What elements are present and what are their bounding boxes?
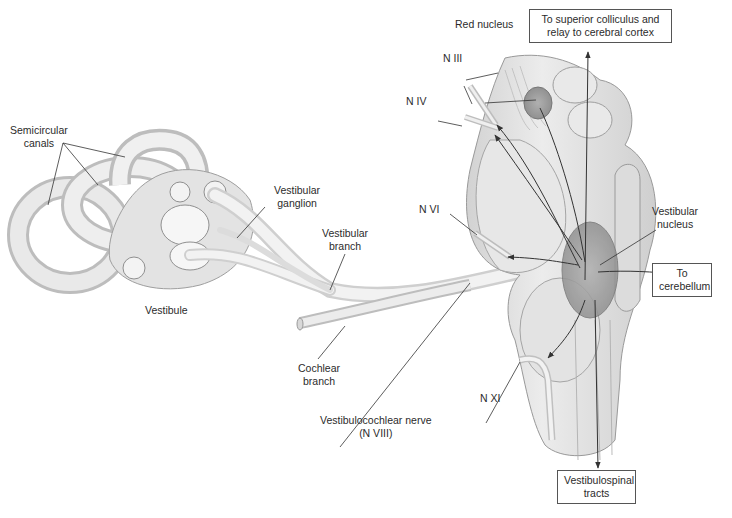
box-line: tracts [564, 487, 629, 500]
box-superior-colliculus: To superior colliculus and relay to cere… [529, 9, 672, 43]
red-nucleus-shape [524, 87, 552, 119]
label-vestibule: Vestibule [145, 304, 188, 317]
box-line: To superior colliculus and [536, 13, 665, 26]
box-cerebellum: To cerebellum [652, 263, 712, 297]
label-text: Red nucleus [455, 18, 513, 30]
label-line: Cochlear [298, 362, 340, 375]
label-n-vi: N VI [419, 203, 439, 216]
label-line: Semicircular [10, 124, 68, 137]
label-vestibular-nucleus: Vestibular nucleus [652, 205, 698, 231]
label-text: N XI [480, 392, 500, 404]
label-line: canals [10, 137, 68, 150]
label-line: Vestibular [652, 205, 698, 218]
label-cochlear-branch: Cochlear branch [298, 362, 340, 388]
vestibule-drawing [109, 170, 253, 289]
label-line: (N VIII) [320, 427, 432, 440]
label-line: Vestibular [274, 184, 320, 197]
label-red-nucleus: Red nucleus [455, 18, 513, 31]
label-vestibular-ganglion: Vestibular ganglion [274, 184, 320, 210]
box-line: To [659, 267, 705, 280]
label-n-iii: N III [443, 52, 462, 65]
label-text: Vestibule [145, 304, 188, 316]
label-vestibular-branch: Vestibular branch [322, 227, 368, 253]
label-text: N IV [406, 95, 426, 107]
label-n-iv: N IV [406, 95, 426, 108]
label-text: N III [443, 52, 462, 64]
box-line: Vestibulospinal [564, 474, 629, 487]
label-line: nucleus [652, 218, 698, 231]
vestibular-pathway-illustration [0, 0, 732, 518]
label-line: Vestibular [322, 227, 368, 240]
label-semicircular-canals: Semicircular canals [10, 124, 68, 150]
box-vestibulospinal-tracts: Vestibulospinal tracts [557, 470, 636, 504]
box-line: cerebellum [659, 280, 705, 293]
label-n-xi: N XI [480, 392, 500, 405]
vestibular-nucleus-shape [562, 222, 618, 318]
label-vestibulocochlear-nerve: Vestibulocochlear nerve (N VIII) [320, 414, 432, 440]
label-line: branch [298, 375, 340, 388]
label-text: N VI [419, 203, 439, 215]
box-line: relay to cerebral cortex [536, 26, 665, 39]
label-line: ganglion [274, 197, 320, 210]
label-line: Vestibulocochlear nerve [320, 414, 432, 427]
label-line: branch [322, 240, 368, 253]
